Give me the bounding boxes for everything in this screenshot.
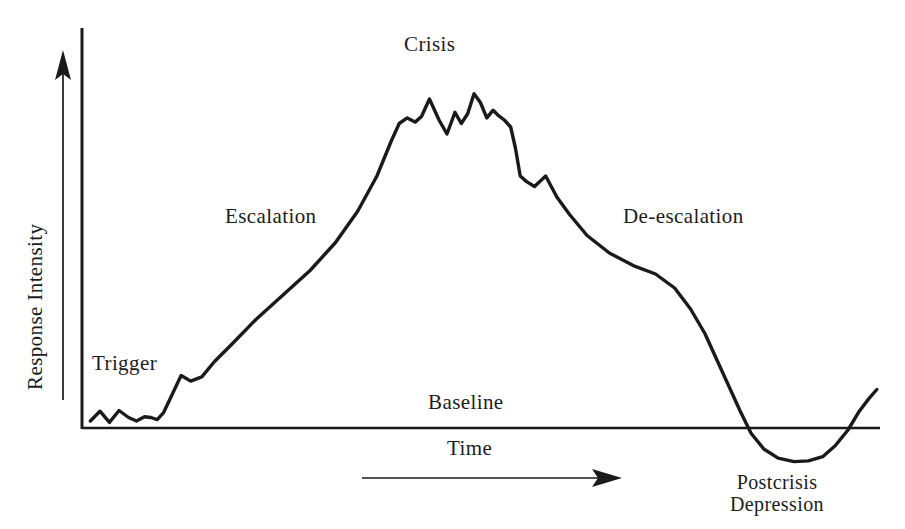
label-time-axis: Time [447, 437, 492, 461]
label-escalation: Escalation [225, 205, 316, 229]
label-crisis: Crisis [404, 33, 455, 57]
y-axis-arrow-icon [55, 50, 71, 400]
label-response-intensity: Response Intensity [24, 150, 48, 390]
label-de-escalation: De-escalation [623, 205, 744, 229]
label-postcrisis-line2: Depression [730, 493, 824, 515]
label-postcrisis-line1: Postcrisis [730, 471, 824, 493]
label-baseline: Baseline [428, 391, 504, 415]
label-postcrisis-depression: Postcrisis Depression [730, 471, 824, 516]
label-trigger: Trigger [92, 352, 157, 376]
y-axis-label-container: Response Intensity [24, 390, 264, 416]
x-axis-arrow-icon [362, 469, 622, 487]
crisis-curve-figure: Crisis Escalation De-escalation Trigger … [0, 0, 905, 529]
